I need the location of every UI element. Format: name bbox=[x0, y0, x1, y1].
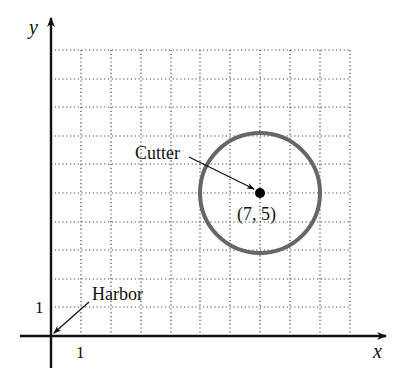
cutter-label: Cutter bbox=[135, 143, 180, 163]
cutter-point bbox=[255, 188, 265, 198]
harbor-label: Harbor bbox=[92, 284, 143, 304]
coordinate-diagram: y x 1 1 Cutter (7, 5) Harbor bbox=[0, 0, 401, 383]
x-axis-label: x bbox=[372, 340, 382, 362]
cutter-coordinates: (7, 5) bbox=[237, 204, 276, 225]
y-tick-label: 1 bbox=[35, 298, 44, 317]
x-tick-label: 1 bbox=[76, 343, 85, 362]
y-axis-label: y bbox=[27, 16, 38, 39]
